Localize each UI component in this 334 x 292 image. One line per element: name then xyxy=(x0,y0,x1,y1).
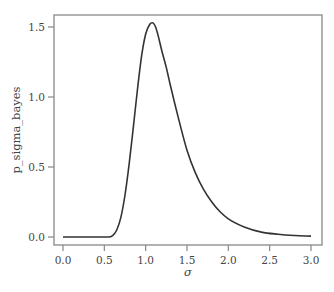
density-curve xyxy=(63,23,311,237)
x-axis: 0.00.51.01.52.02.53.0 xyxy=(55,245,320,266)
x-tick-label: 2.5 xyxy=(261,254,278,266)
y-axis-title: p_sigma_bayes xyxy=(9,86,23,173)
x-tick-label: 0.0 xyxy=(55,254,72,266)
x-tick-label: 0.5 xyxy=(96,254,113,266)
y-tick-label: 0.5 xyxy=(28,161,45,173)
x-tick-label: 1.0 xyxy=(137,254,154,266)
x-axis-title: σ xyxy=(184,265,193,279)
x-tick-label: 3.0 xyxy=(303,254,320,266)
density-plot: 0.00.51.01.52.02.53.0 0.00.51.01.5 σ p_s… xyxy=(0,0,334,292)
x-tick-label: 2.0 xyxy=(220,254,237,266)
y-tick-label: 1.5 xyxy=(28,21,45,33)
y-tick-label: 1.0 xyxy=(28,91,45,103)
y-tick-label: 0.0 xyxy=(28,231,45,243)
plot-frame xyxy=(54,15,322,245)
y-axis: 0.00.51.01.5 xyxy=(28,21,54,243)
chart-container: 0.00.51.01.52.02.53.0 0.00.51.01.5 σ p_s… xyxy=(0,0,334,292)
